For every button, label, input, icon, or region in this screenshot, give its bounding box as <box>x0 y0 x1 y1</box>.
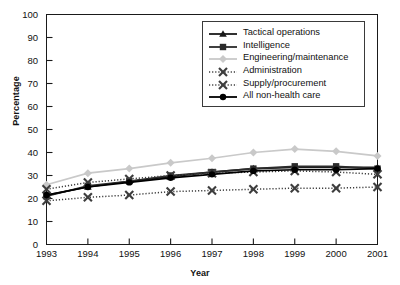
legend-item-5: All non-health care <box>208 89 359 102</box>
x-tick-2001: 2001 <box>358 248 398 259</box>
legend-key-icon <box>208 51 238 63</box>
legend-label: Supply/procurement <box>243 77 326 89</box>
x-tick-1994: 1994 <box>68 248 108 259</box>
legend-label: Intelligence <box>243 39 290 51</box>
legend-item-4: Supply/procurement <box>208 76 359 89</box>
y-tick-70: 70 <box>4 78 38 89</box>
y-tick-60: 60 <box>4 101 38 112</box>
x-tick-1999: 1999 <box>275 248 315 259</box>
x-tick-1995: 1995 <box>109 248 149 259</box>
legend-key-icon <box>208 64 238 76</box>
legend-key-icon <box>208 89 238 101</box>
legend-label: All non-health care <box>243 89 321 101</box>
y-tick-50: 50 <box>4 124 38 135</box>
y-tick-80: 80 <box>4 55 38 66</box>
legend-key-icon <box>208 77 238 89</box>
x-tick-1997: 1997 <box>192 248 232 259</box>
x-tick-1998: 1998 <box>233 248 273 259</box>
y-tick-40: 40 <box>4 147 38 158</box>
x-tick-1993: 1993 <box>27 248 67 259</box>
x-tick-1996: 1996 <box>151 248 191 259</box>
legend-item-3: Administration <box>208 64 359 77</box>
series-tactical-operations <box>43 164 382 198</box>
legend-item-2: Engineering/maintenance <box>208 51 359 64</box>
legend-item-1: Intelligence <box>208 39 359 52</box>
legend-key-icon <box>208 39 238 51</box>
y-tick-20: 20 <box>4 193 38 204</box>
y-tick-90: 90 <box>4 32 38 43</box>
y-tick-100: 100 <box>4 9 38 20</box>
legend-item-0: Tactical operations <box>208 26 359 39</box>
legend-label: Engineering/maintenance <box>243 51 348 63</box>
chart-figure: Percentage Year 0102030405060708090100 1… <box>0 0 400 285</box>
y-tick-30: 30 <box>4 170 38 181</box>
legend-label: Tactical operations <box>243 26 320 38</box>
legend-label: Administration <box>243 64 302 76</box>
y-tick-10: 10 <box>4 216 38 227</box>
x-tick-2000: 2000 <box>316 248 356 259</box>
legend-key-icon <box>208 26 238 38</box>
chart-legend: Tactical operationsIntelligenceEngineeri… <box>202 21 365 107</box>
